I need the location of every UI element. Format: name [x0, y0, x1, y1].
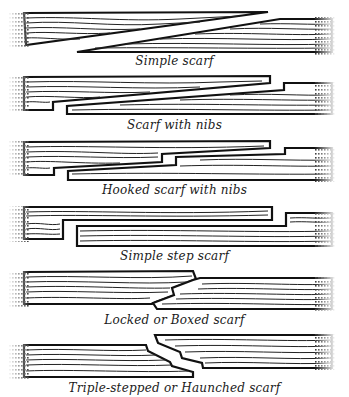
panel-simple-step-scarf [8, 204, 336, 250]
panel-simple-scarf [8, 10, 336, 57]
caption-scarf-with-nibs: Scarf with nibs [0, 118, 349, 132]
panel-scarf-with-nibs [8, 74, 336, 118]
caption-simple-step-scarf: Simple step scarf [0, 249, 349, 263]
panel-locked-or-boxed-scarf [8, 269, 336, 313]
caption-hooked-scarf-with-nibs: Hooked scarf with nibs [0, 183, 349, 197]
panel-hooked-scarf-with-nibs [8, 139, 336, 184]
caption-triple-stepped-or-haunched-scarf: Triple-stepped or Haunched scarf [0, 381, 349, 395]
panel-triple-stepped-or-haunched-scarf [8, 332, 336, 381]
caption-locked-or-boxed-scarf: Locked or Boxed scarf [0, 313, 349, 327]
caption-simple-scarf: Simple scarf [0, 54, 349, 68]
